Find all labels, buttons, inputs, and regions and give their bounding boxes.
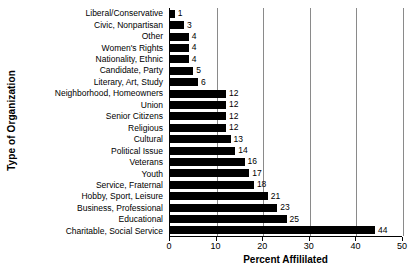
bar-value-label: 25 — [290, 215, 299, 224]
category-label: Women's Rights — [102, 44, 163, 53]
bar-value-label: 4 — [192, 55, 197, 64]
category-label-row: Veterans — [22, 157, 166, 168]
category-label: Religious — [128, 124, 163, 133]
bar-row: 12 — [170, 88, 402, 99]
category-label-row: Other — [22, 31, 166, 42]
bar-value-label: 21 — [271, 192, 280, 201]
category-label: Educational — [119, 215, 163, 224]
bar — [170, 226, 375, 234]
category-label: Neighborhood, Homeowners — [55, 89, 163, 98]
bar-value-label: 12 — [229, 112, 238, 121]
bar — [170, 55, 189, 63]
category-label-row: Neighborhood, Homeowners — [22, 88, 166, 99]
category-label-row: Nationality, Ethnic — [22, 54, 166, 65]
category-axis-labels: Liberal/ConservativeCivic, NonpartisanOt… — [22, 8, 166, 237]
bar — [170, 67, 193, 75]
category-label: Veterans — [129, 158, 163, 167]
bar — [170, 78, 198, 86]
plot-area: 134445612121212131416171821232544 — [169, 8, 402, 237]
bar-value-label: 12 — [229, 89, 238, 98]
category-label-row: Cultural — [22, 134, 166, 145]
bar-value-label: 13 — [234, 135, 243, 144]
bar — [170, 192, 268, 200]
bar-row: 21 — [170, 191, 402, 202]
bar-row: 4 — [170, 42, 402, 53]
category-label: Senior Citizens — [106, 112, 163, 121]
bar-value-label: 4 — [192, 32, 197, 41]
bar — [170, 44, 189, 52]
category-label: Business, Professional — [77, 204, 163, 213]
x-tick-label: 0 — [166, 241, 171, 252]
bar-row: 16 — [170, 156, 402, 167]
category-label: Other — [142, 32, 163, 41]
category-label-row: Women's Rights — [22, 42, 166, 53]
bar-row: 5 — [170, 65, 402, 76]
bar — [170, 215, 287, 223]
category-label: Hobby, Sport, Leisure — [81, 192, 163, 201]
bar-value-label: 16 — [248, 157, 257, 166]
bar — [170, 158, 245, 166]
category-label: Nationality, Ethnic — [96, 55, 163, 64]
category-label-row: Union — [22, 100, 166, 111]
bar-row: 3 — [170, 19, 402, 30]
y-axis-title: Type of Organization — [0, 0, 22, 240]
x-axis-title: Percent Affililated — [169, 254, 402, 265]
category-label-row: Service, Fraternal — [22, 180, 166, 191]
category-label-row: Liberal/Conservative — [22, 8, 166, 19]
category-label: Cultural — [134, 135, 163, 144]
bar-value-label: 44 — [378, 226, 387, 235]
category-label-row: Religious — [22, 123, 166, 134]
x-axis-tick-labels: 01020304050 — [169, 241, 402, 253]
bar-row: 12 — [170, 99, 402, 110]
bar-value-label: 3 — [187, 21, 192, 30]
category-label-row: Senior Citizens — [22, 111, 166, 122]
x-tick-label: 30 — [304, 241, 314, 252]
bar — [170, 101, 226, 109]
bar — [170, 21, 184, 29]
bar-row: 12 — [170, 122, 402, 133]
bar-value-label: 12 — [229, 100, 238, 109]
bar-row: 44 — [170, 225, 402, 236]
bar-value-label: 6 — [201, 78, 206, 87]
category-label: Union — [141, 101, 163, 110]
bar-value-label: 17 — [252, 169, 261, 178]
category-label-row: Political Issue — [22, 145, 166, 156]
bar — [170, 90, 226, 98]
category-label: Youth — [142, 170, 163, 179]
bar-row: 4 — [170, 31, 402, 42]
x-tick-label: 40 — [350, 241, 360, 252]
category-label-row: Hobby, Sport, Leisure — [22, 191, 166, 202]
bar-row: 13 — [170, 133, 402, 144]
bar-chart: Type of Organization Liberal/Conservativ… — [0, 0, 418, 273]
bar — [170, 33, 189, 41]
category-label: Political Issue — [111, 147, 163, 156]
category-label: Literary, Art, Study — [94, 78, 163, 87]
bar-series: 134445612121212131416171821232544 — [170, 8, 402, 236]
category-label: Liberal/Conservative — [86, 9, 163, 18]
bar-row: 23 — [170, 202, 402, 213]
category-label-row: Youth — [22, 168, 166, 179]
bar-value-label: 4 — [192, 43, 197, 52]
category-label: Candidate, Party — [100, 66, 163, 75]
bar-row: 1 — [170, 8, 402, 19]
gridline — [403, 8, 404, 236]
y-axis-title-text: Type of Organization — [6, 70, 17, 171]
bar-value-label: 1 — [178, 9, 183, 18]
category-label-row: Educational — [22, 214, 166, 225]
bar-value-label: 5 — [196, 66, 201, 75]
bar — [170, 169, 249, 177]
bar-row: 4 — [170, 54, 402, 65]
x-tick-label: 50 — [397, 241, 407, 252]
bar — [170, 112, 226, 120]
bar — [170, 147, 235, 155]
category-label: Charitable, Social Service — [66, 227, 163, 236]
bar-row: 18 — [170, 179, 402, 190]
category-label-row: Business, Professional — [22, 203, 166, 214]
bar — [170, 135, 231, 143]
category-label: Civic, Nonpartisan — [94, 21, 163, 30]
bar — [170, 10, 175, 18]
bar — [170, 181, 254, 189]
bar-row: 17 — [170, 168, 402, 179]
bar-row: 14 — [170, 145, 402, 156]
bar-value-label: 18 — [257, 180, 266, 189]
